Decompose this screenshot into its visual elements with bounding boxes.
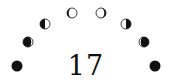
first-quarter-moon-icon: [40, 19, 50, 29]
new-moon-end-icon: [150, 61, 161, 72]
last-quarter-moon-icon: [121, 19, 131, 29]
waning-crescent-moon-icon: [139, 37, 149, 47]
day-number: 17: [62, 52, 110, 80]
moon-phase-calendar: 17: [0, 0, 172, 84]
waning-gibbous-moon-icon: [96, 8, 106, 18]
new-moon-icon: [12, 61, 23, 72]
waxing-gibbous-moon-icon: [67, 8, 77, 18]
waxing-crescent-moon-icon: [23, 37, 33, 47]
